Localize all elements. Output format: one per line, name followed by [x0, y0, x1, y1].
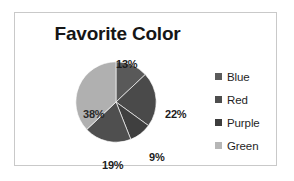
legend-item-blue[interactable]: Blue [215, 65, 293, 88]
legend-item-green[interactable]: Green [215, 134, 293, 157]
legend-item-purple[interactable]: Purple [215, 111, 293, 134]
legend-swatch-icon [215, 142, 222, 149]
chart-frame: Favorite Color 13% 22% 9% 19% 38% Blue R… [14, 12, 277, 166]
legend-swatch-icon [215, 119, 222, 126]
legend-swatch-icon [215, 96, 222, 103]
legend-label-blue: Blue [227, 71, 250, 83]
legend-item-red[interactable]: Red [215, 88, 293, 111]
slice-label-13: 13% [116, 58, 137, 70]
slice-label-9: 9% [149, 151, 165, 163]
legend-label-red: Red [227, 94, 248, 106]
chart-legend: Blue Red Purple Green [215, 65, 293, 157]
pie-chart-graphic [75, 61, 157, 143]
pie-svg [75, 61, 157, 143]
chart-title: Favorite Color [15, 23, 220, 45]
legend-swatch-icon [215, 73, 222, 80]
slice-label-38: 38% [83, 108, 104, 120]
legend-label-green: Green [227, 140, 258, 152]
legend-label-purple: Purple [227, 117, 260, 129]
slice-label-22: 22% [165, 108, 186, 120]
slice-label-19: 19% [102, 159, 123, 171]
